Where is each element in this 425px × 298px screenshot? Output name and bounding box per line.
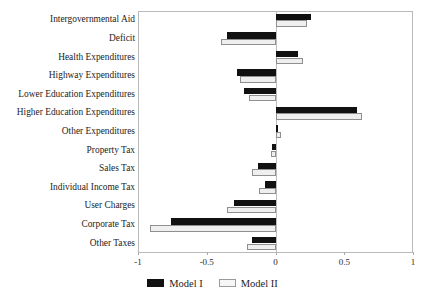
bar-model-i bbox=[276, 51, 298, 57]
bar-model-ii bbox=[276, 20, 308, 26]
x-axis-tick bbox=[138, 252, 139, 255]
bar-row: Other Expenditures bbox=[0, 123, 425, 142]
x-axis-tick bbox=[276, 252, 277, 255]
bar-model-i bbox=[234, 200, 275, 206]
category-label: Health Expenditures bbox=[58, 53, 135, 62]
bar-model-ii bbox=[150, 225, 275, 231]
chart-legend: Model I Model II bbox=[0, 274, 425, 292]
bar-chart: Intergovernmental AidDeficitHealth Expen… bbox=[0, 0, 425, 298]
bar-model-i bbox=[265, 181, 276, 187]
bar-row: Individual Income Tax bbox=[0, 179, 425, 198]
category-label: Deficit bbox=[109, 34, 135, 43]
bar-model-i bbox=[171, 218, 276, 224]
bar-model-ii bbox=[271, 151, 276, 157]
bar-row: User Charges bbox=[0, 197, 425, 216]
category-label: Lower Education Expenditures bbox=[18, 90, 135, 99]
bar-rows-container: Intergovernmental AidDeficitHealth Expen… bbox=[0, 11, 425, 253]
bar-model-ii bbox=[221, 39, 276, 45]
x-axis-tick-label: 1 bbox=[411, 257, 416, 267]
bar-model-ii bbox=[227, 207, 275, 213]
bar-model-i bbox=[276, 107, 357, 113]
bar-row: Lower Education Expenditures bbox=[0, 85, 425, 104]
x-axis-tick-label: -1 bbox=[134, 257, 142, 267]
category-label: Other Taxes bbox=[90, 239, 135, 248]
bar-row: Sales Tax bbox=[0, 160, 425, 179]
x-axis: -1-0.500.51 bbox=[138, 252, 413, 253]
x-axis-tick bbox=[413, 252, 414, 255]
bar-row: Property Tax bbox=[0, 141, 425, 160]
category-label: Intergovernmental Aid bbox=[50, 16, 135, 25]
x-axis-tick-label: 0 bbox=[273, 257, 278, 267]
bar-model-i bbox=[276, 14, 312, 20]
chart-title-clipped bbox=[0, 0, 425, 11]
legend-item-model-ii: Model II bbox=[219, 278, 278, 289]
bar-model-ii bbox=[276, 58, 304, 64]
bar-model-ii bbox=[259, 188, 276, 194]
category-label: Individual Income Tax bbox=[50, 183, 135, 192]
bar-model-i bbox=[237, 69, 276, 75]
legend-label-model-ii: Model II bbox=[241, 278, 278, 289]
bar-row: Higher Education Expenditures bbox=[0, 104, 425, 123]
bar-model-ii bbox=[240, 76, 276, 82]
bar-row: Other Taxes bbox=[0, 234, 425, 253]
bar-model-ii bbox=[252, 169, 275, 175]
bar-model-ii bbox=[247, 244, 276, 250]
bar-row: Intergovernmental Aid bbox=[0, 11, 425, 30]
x-axis-tick bbox=[344, 252, 345, 255]
bar-model-ii bbox=[276, 113, 363, 119]
category-label: Higher Education Expenditures bbox=[17, 109, 135, 118]
bar-model-i bbox=[272, 144, 275, 150]
bar-model-i bbox=[258, 163, 276, 169]
bar-row: Deficit bbox=[0, 30, 425, 49]
bar-row: Health Expenditures bbox=[0, 48, 425, 67]
legend-item-model-i: Model I bbox=[147, 278, 203, 289]
legend-swatch-model-i bbox=[147, 279, 164, 288]
x-axis-tick bbox=[207, 252, 208, 255]
category-label: Other Expenditures bbox=[62, 127, 135, 136]
category-label: Highway Expenditures bbox=[49, 71, 135, 80]
x-axis-tick-label: -0.5 bbox=[200, 257, 214, 267]
category-label: User Charges bbox=[84, 202, 135, 211]
bar-model-i bbox=[276, 125, 278, 131]
category-label: Sales Tax bbox=[99, 165, 135, 174]
bar-model-i bbox=[227, 32, 275, 38]
bar-model-i bbox=[252, 237, 275, 243]
bar-row: Highway Expenditures bbox=[0, 67, 425, 86]
legend-label-model-i: Model I bbox=[169, 278, 203, 289]
bar-model-ii bbox=[249, 95, 275, 101]
category-label: Corporate Tax bbox=[81, 220, 135, 229]
bar-model-i bbox=[244, 88, 276, 94]
x-axis-tick-label: 0.5 bbox=[339, 257, 350, 267]
bar-model-ii bbox=[276, 132, 282, 138]
bar-row: Corporate Tax bbox=[0, 216, 425, 235]
category-label: Property Tax bbox=[87, 146, 135, 155]
legend-swatch-model-ii bbox=[219, 279, 236, 288]
